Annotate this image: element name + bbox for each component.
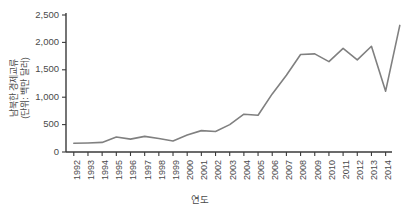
y-axis-group: 05001,0001,5002,0002,500 <box>35 9 66 157</box>
y-axis-title-line1: 남북한 경제교류 <box>8 59 19 118</box>
x-tick-label: 2009 <box>313 160 323 180</box>
line-chart: 05001,0001,5002,0002,500 199219931994199… <box>0 0 401 211</box>
y-tick-label: 500 <box>43 118 59 129</box>
x-tick-label: 1996 <box>128 160 138 180</box>
x-tick-label: 2003 <box>228 160 238 180</box>
x-tick-label: 2012 <box>355 160 365 180</box>
x-tick-label: 2013 <box>369 160 379 180</box>
y-tick-label: 2,000 <box>35 36 59 47</box>
y-tick-label: 1,000 <box>35 91 59 102</box>
x-tick-label: 1997 <box>143 160 153 180</box>
x-tick-label: 2005 <box>256 160 266 180</box>
x-tick-label: 1995 <box>114 160 124 180</box>
x-tick-label: 2014 <box>383 160 393 180</box>
y-tick-labels: 05001,0001,5002,0002,500 <box>35 9 59 157</box>
x-tick-label: 2001 <box>199 160 209 180</box>
x-tick-label: 2002 <box>213 160 223 180</box>
data-line-series <box>74 25 400 143</box>
x-tick-label: 2011 <box>341 160 351 179</box>
x-tick-label: 2006 <box>270 160 280 180</box>
x-tick-labels: 1992199319941995199619971998199920002001… <box>72 160 394 180</box>
chart-canvas: 05001,0001,5002,0002,500 199219931994199… <box>0 0 401 211</box>
x-tick-label: 2000 <box>185 160 195 180</box>
y-tick-label: 1,500 <box>35 63 59 74</box>
x-tick-label: 1992 <box>72 160 82 180</box>
x-tick-label: 2004 <box>242 160 252 180</box>
x-tick-label: 1994 <box>100 160 110 180</box>
x-tick-label: 2007 <box>284 160 294 180</box>
x-tick-label: 1993 <box>86 160 96 180</box>
x-tick-label: 2008 <box>298 160 308 180</box>
y-axis-title: 남북한 경제교류 (단위: 백만 달러) <box>8 57 30 119</box>
y-tick-label: 2,500 <box>35 9 59 20</box>
x-tick-label: 2010 <box>327 160 337 180</box>
x-tick-label: 1998 <box>157 160 167 180</box>
x-axis-title: 연도 <box>191 194 209 205</box>
y-tick-label: 0 <box>54 146 59 157</box>
x-tick-label: 1999 <box>171 160 181 180</box>
data-series-group <box>74 25 400 143</box>
x-axis-group: 1992199319941995199619971998199920002001… <box>66 152 393 180</box>
y-axis-title-line2: (단위: 백만 달러) <box>19 57 30 119</box>
